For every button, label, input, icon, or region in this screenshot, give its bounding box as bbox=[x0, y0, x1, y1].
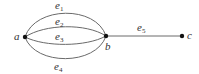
node-label-c: c bbox=[187, 29, 192, 41]
edge-e2 bbox=[25, 27, 106, 37]
edge-label-e3: e3 bbox=[55, 30, 64, 44]
edge-label-e5: e5 bbox=[137, 21, 146, 35]
node-a bbox=[23, 35, 27, 39]
graph-diagram: a b c e1 e2 e3 e4 e5 bbox=[0, 0, 199, 74]
edge-label-e1: e1 bbox=[55, 0, 64, 13]
edge-label-e4: e4 bbox=[54, 60, 63, 74]
node-label-a: a bbox=[14, 30, 20, 42]
edge-label-e2: e2 bbox=[55, 15, 64, 29]
edge-e4 bbox=[25, 36, 106, 59]
edge-e1 bbox=[25, 13, 106, 37]
node-b bbox=[104, 34, 108, 38]
node-label-b: b bbox=[105, 40, 111, 52]
node-c bbox=[180, 34, 184, 38]
edge-e3 bbox=[25, 36, 106, 44]
